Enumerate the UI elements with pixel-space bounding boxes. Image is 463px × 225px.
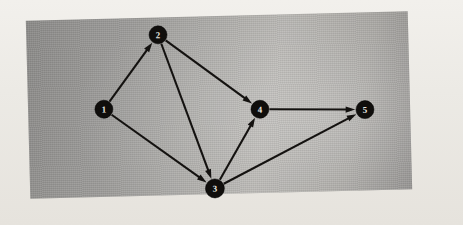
nodes-layer: 12345 bbox=[93, 20, 376, 201]
edge-1-to-2 bbox=[108, 43, 154, 102]
graph-node-label: 4 bbox=[258, 105, 263, 115]
arrowhead-icon bbox=[248, 118, 256, 128]
edge-2-to-3 bbox=[161, 43, 211, 180]
directed-graph: 12345 bbox=[0, 0, 463, 225]
graph-node-label: 3 bbox=[213, 184, 218, 194]
arrowhead-icon bbox=[346, 114, 356, 121]
graph-node-2[interactable]: 2 bbox=[149, 26, 167, 44]
edge-1-to-3 bbox=[112, 112, 207, 184]
graph-node-label: 2 bbox=[156, 30, 161, 40]
graph-node-label: 5 bbox=[363, 105, 368, 115]
edge-4-to-5 bbox=[269, 106, 355, 114]
graph-node-label: 1 bbox=[102, 104, 107, 114]
edge-3-to-5 bbox=[222, 114, 358, 184]
graph-node-5[interactable]: 5 bbox=[356, 100, 374, 118]
graph-node-4[interactable]: 4 bbox=[251, 100, 269, 118]
arrowhead-icon bbox=[205, 169, 211, 179]
edges-layer bbox=[108, 36, 358, 187]
graph-node-3[interactable]: 3 bbox=[205, 179, 224, 198]
arrowhead-icon bbox=[346, 106, 356, 112]
edge-2-to-4 bbox=[166, 38, 252, 105]
graph-node-1[interactable]: 1 bbox=[95, 100, 113, 118]
